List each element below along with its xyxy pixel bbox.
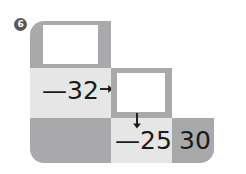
answer-box-r1c1[interactable] — [43, 25, 98, 64]
answer-box-r2c2[interactable] — [117, 73, 165, 112]
operation-label-subtract-25: —25 — [115, 128, 172, 153]
operation-label-subtract-32: —32 — [42, 78, 99, 103]
exercise-number-badge: 6 — [14, 18, 27, 31]
result-label-30: 30 — [179, 128, 211, 153]
exercise-canvas: 6 —32 —25 30 — [0, 0, 246, 174]
grid-cell-r3c1 — [30, 118, 111, 163]
